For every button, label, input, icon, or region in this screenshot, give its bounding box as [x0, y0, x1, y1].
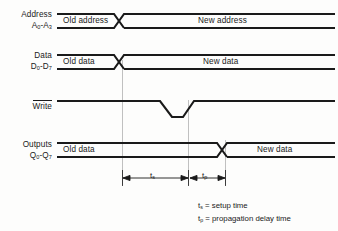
- setup-time-arrowhead-right: [181, 175, 188, 180]
- outputs-label-line1: Outputs: [0, 140, 52, 151]
- address-old-value: Old address: [63, 16, 108, 25]
- write-waveform: [57, 101, 335, 117]
- data-new-value: New data: [203, 57, 238, 66]
- outputs-bottom-old-to-new: [57, 143, 335, 157]
- address-label-line2: A0-A3: [0, 21, 52, 33]
- reference-guide-lines: [123, 60, 226, 185]
- prop-delay-label: tp: [202, 171, 207, 180]
- data-waveform: [57, 55, 335, 69]
- address-new-value: New address: [198, 16, 247, 25]
- outputs-old-value: Old data: [63, 145, 95, 154]
- legend-row-prop-delay: tp = propagation delay time: [198, 213, 291, 226]
- signal-label-write: Write: [0, 100, 52, 112]
- data-label-line1: Data: [0, 51, 52, 62]
- timing-diagram-figure: Address A0-A3 Data D0-D7 Write Outputs Q…: [0, 0, 338, 231]
- data-bottom-old-to-new: [57, 55, 335, 69]
- outputs-label-line2: Q0-Q7: [0, 151, 52, 163]
- write-label-line1: Write: [0, 100, 52, 112]
- outputs-waveform: [57, 143, 335, 157]
- prop-delay-arrowhead-left: [190, 175, 197, 180]
- dimension-arrows: [123, 170, 226, 186]
- setup-time-label: ts: [150, 171, 155, 180]
- prop-delay-arrowhead-right: [218, 175, 225, 180]
- outputs-new-value: New data: [257, 145, 292, 154]
- address-label-line1: Address: [0, 10, 52, 21]
- data-old-value: Old data: [63, 57, 95, 66]
- signal-label-outputs: Outputs Q0-Q7: [0, 140, 52, 162]
- legend-row-setup-time: ts = setup time: [198, 200, 291, 213]
- timing-waveform-canvas: [0, 0, 338, 231]
- write-overbar: Write: [33, 100, 52, 112]
- data-label-line2: D0-D7: [0, 62, 52, 74]
- legend-block: ts = setup time tp = propagation delay t…: [198, 200, 291, 226]
- setup-time-arrowhead-left: [123, 175, 130, 180]
- signal-label-address: Address A0-A3: [0, 10, 52, 32]
- signal-label-data: Data D0-D7: [0, 51, 52, 73]
- write-pulse-path: [57, 101, 335, 117]
